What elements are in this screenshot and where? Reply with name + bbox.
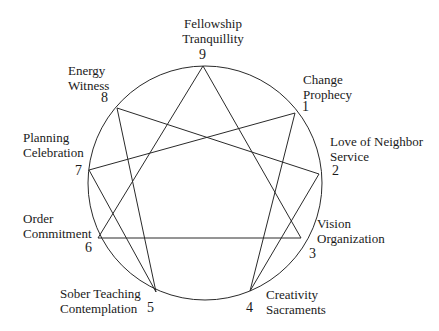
hexad-lines [89,108,319,292]
label-5-line2: Contemplation [60,301,141,316]
label-point-5: Sober Teaching Contemplation [60,286,141,316]
label-3-line2: Organization [317,231,385,246]
line-9-3 [203,66,301,238]
label-7-line2: Celebration [23,145,84,160]
number-6: 6 [85,240,92,255]
label-point-3: Vision Organization [317,216,385,246]
label-point-4: Creativity Sacraments [266,287,326,317]
number-7: 7 [75,163,82,178]
label-1-line2: Prophecy [303,87,352,102]
line-1-4 [250,113,295,291]
label-point-2: Love of Neighbor Service [330,134,423,164]
number-8: 8 [101,90,108,105]
label-9-line2: Tranquillity [175,31,251,46]
line-5-7 [89,170,156,292]
number-2: 2 [332,163,339,178]
line-6-9 [98,66,203,238]
number-3: 3 [309,246,316,261]
triangle-lines [98,66,301,238]
label-6-line1: Order [23,211,92,226]
line-4-2 [250,174,319,291]
number-4: 4 [246,300,253,315]
enneagram-circle [88,66,322,300]
label-6-line2: Commitment [23,226,92,241]
label-2-line2: Service [330,149,423,164]
number-5: 5 [147,300,154,315]
enneagram-diagram [0,0,439,331]
label-point-8: Energy Witness [68,63,108,93]
line-8-5 [117,108,156,292]
line-2-8 [117,108,319,174]
label-2-line1: Love of Neighbor [330,134,423,149]
number-1: 1 [302,99,309,114]
label-3-line1: Vision [317,216,385,231]
label-point-6: Order Commitment [23,211,92,241]
label-1-line1: Change [303,72,352,87]
label-4-line2: Sacraments [266,302,326,317]
label-7-line1: Planning [23,130,84,145]
number-9: 9 [199,47,206,62]
label-8-line1: Energy [68,63,108,78]
label-4-line1: Creativity [266,287,326,302]
label-point-1: Change Prophecy [303,72,352,102]
label-5-line1: Sober Teaching [60,286,141,301]
label-point-7: Planning Celebration [23,130,84,160]
label-9-line1: Fellowship [175,16,251,31]
label-point-9: Fellowship Tranquillity [175,16,251,46]
